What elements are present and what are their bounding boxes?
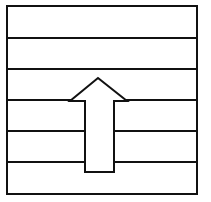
band-diagram xyxy=(0,0,211,202)
up-arrow-icon xyxy=(70,78,127,172)
